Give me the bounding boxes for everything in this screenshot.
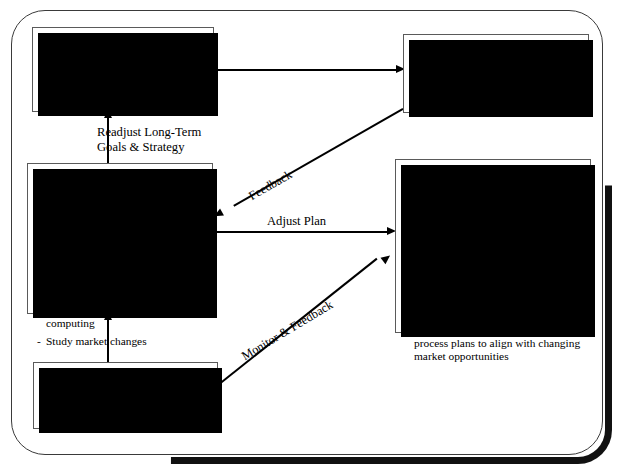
box-initial-bullets: Initial Client/Server deployment bbox=[430, 61, 588, 75]
box-mid-term-title: Mid-Term Planning Process bbox=[37, 171, 203, 203]
arrow-label-readjust: Readjust Long-Term Goals & Strategy bbox=[97, 125, 201, 155]
box-planning-actions[interactable]: Eliminate as many causes of obstacles an… bbox=[395, 159, 591, 333]
bullet-item: Zero in on the most successful Client/Se… bbox=[37, 226, 203, 253]
arrow-long-term-to-initial-line bbox=[214, 69, 398, 71]
box-annual-title: Annual Planning Process bbox=[44, 371, 207, 403]
bullet-item: Identify unexpected benefits & opportuni… bbox=[37, 289, 203, 330]
arrow-adjust-plan-line bbox=[213, 231, 389, 233]
arrow-label-adjust-plan: Adjust Plan bbox=[267, 214, 326, 229]
box-long-term-bullets: Establish strategic plans aligned with o… bbox=[43, 76, 203, 103]
bullet-item: Modify Client/Server & business process … bbox=[405, 323, 583, 364]
bullet-item: Go to Mid-Term Process Planning bbox=[44, 407, 207, 434]
bullet-item: Study market changes bbox=[37, 335, 203, 349]
bullet-item: Initial Client/Server deployment bbox=[430, 61, 588, 75]
box-annual-bullets: Go to Mid-Term Process Planning bbox=[44, 407, 207, 439]
box-actions-bullets: Eliminate as many causes of obstacles an… bbox=[405, 169, 583, 364]
bullet-item: Improve business process to gain benefit… bbox=[405, 278, 583, 319]
box-mid-term-planning-process[interactable]: Mid-Term Planning Process Evaluate perfo… bbox=[27, 163, 213, 314]
bullet-item: Clarify & modify vision bbox=[405, 260, 583, 274]
bullet-item: Evaluate performance bbox=[37, 208, 203, 222]
bullet-item: Establish strategic plans aligned with o… bbox=[43, 76, 203, 103]
box-mid-term-bullets: Evaluate performance Zero in on the most… bbox=[37, 208, 203, 348]
diagram-canvas: Long-Term Planning Process Establish str… bbox=[0, 0, 626, 471]
box-initial-client-server-deployment[interactable]: Initial Client/Server deployment bbox=[403, 34, 589, 113]
box-long-term-planning-process[interactable]: Long-Term Planning Process Establish str… bbox=[32, 27, 214, 112]
bullet-item: Eliminate as many causes of obstacles an… bbox=[405, 169, 583, 210]
bullet-item: Analyze obstacles & disappointments bbox=[37, 258, 203, 285]
box-initial-body: Initial Client/Server deployment bbox=[404, 35, 588, 75]
box-long-term-title: Long-Term Planning Process bbox=[43, 37, 203, 69]
bullet-item: Modify Client/Server plans to better ali… bbox=[405, 214, 583, 255]
box-annual-planning-process[interactable]: Annual Planning Process Go to Mid-Term P… bbox=[33, 362, 218, 429]
